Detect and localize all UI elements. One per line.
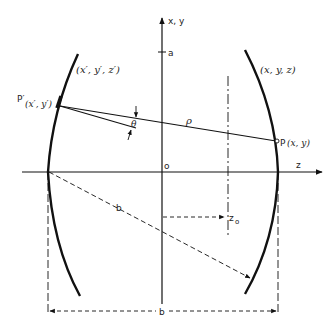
theta-label: θ <box>131 119 137 129</box>
z0-subscript: o <box>235 218 239 226</box>
left-mirror-surface <box>48 54 80 296</box>
mirror-geometry-diagram: x, y a z o (x′, y′, z′) (x, y, z) P′ (x′… <box>0 0 336 329</box>
p-point <box>275 139 279 143</box>
origin-label: o <box>164 161 170 171</box>
b-diagonal-line <box>49 172 250 278</box>
rho-label: ρ <box>185 115 192 126</box>
b-diagonal-label: b <box>116 203 122 213</box>
left-surface-label: (x′, y′, z′) <box>76 64 120 75</box>
theta-arrow-bottom <box>128 130 131 140</box>
b-bottom-label: b <box>159 307 165 317</box>
rho-line <box>60 106 276 141</box>
z-axis-label: z <box>296 160 301 170</box>
z0-label: z <box>229 213 234 223</box>
p-prime-coords: (x′, y′) <box>25 99 52 109</box>
y-axis-label: x, y <box>168 16 185 26</box>
p-prime-label: P′ <box>17 94 24 104</box>
right-surface-label: (x, y, z) <box>260 64 296 75</box>
p-coords: (x, y) <box>287 138 310 148</box>
a-label: a <box>168 48 174 58</box>
p-label: P <box>280 138 286 148</box>
